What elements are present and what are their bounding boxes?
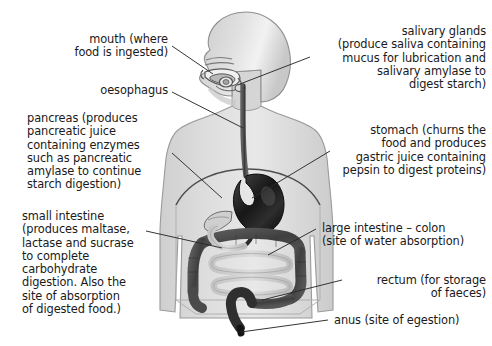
label-small-intestine: small intestine (produces maltase, lacta… bbox=[22, 210, 142, 316]
label-rectum: rectum (for storage of faeces) bbox=[348, 274, 486, 301]
label-mouth: mouth (where food is ingested) bbox=[52, 33, 168, 60]
anus-organ bbox=[240, 328, 241, 333]
label-large-intestine: large intestine – colon (site of water a… bbox=[322, 222, 486, 249]
label-anus: anus (site of egestion) bbox=[334, 314, 486, 327]
label-oesophagus: oesophagus bbox=[66, 84, 168, 97]
label-salivary-glands: salivary glands (produce saliva containi… bbox=[316, 25, 486, 91]
digestive-system-diagram: mouth (where food is ingested) oesophagu… bbox=[0, 0, 492, 346]
label-stomach: stomach (churns the food and produces ga… bbox=[336, 124, 486, 177]
oesophagus-organ bbox=[243, 86, 246, 176]
leader-line-anus bbox=[241, 320, 328, 332]
label-pancreas: pancreas (produces pancreatic juice cont… bbox=[27, 112, 169, 192]
